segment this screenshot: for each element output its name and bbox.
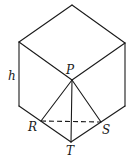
- edge-top-upper-left: [19, 5, 72, 42]
- edge-P-T: [71, 80, 72, 142]
- edge-P-R: [41, 80, 72, 121]
- label-T: T: [66, 144, 75, 157]
- label-S: S: [102, 123, 110, 137]
- edge-upper-right-P: [72, 43, 125, 80]
- label-R: R: [27, 120, 37, 134]
- edge-P-S: [72, 80, 101, 122]
- edge-lower-right-T: [71, 106, 125, 142]
- edge-lower-left-T: [19, 106, 71, 142]
- cube-tetrahedron-diagram: h P R S T: [0, 0, 131, 157]
- label-P: P: [65, 63, 75, 77]
- label-h: h: [8, 69, 16, 83]
- edge-upper-left-P: [19, 42, 72, 80]
- edge-top-upper-right: [72, 5, 125, 43]
